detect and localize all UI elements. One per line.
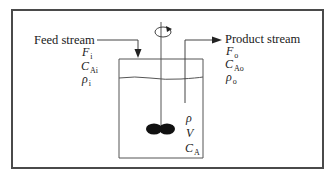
- product-stream-label: Product stream: [225, 32, 301, 46]
- tank-density-var: ρ: [185, 111, 192, 125]
- tank-concentration-var: CA: [185, 141, 200, 157]
- feed-arrow: [97, 40, 142, 58]
- cstr-diagram: Feed stream Fi CAi ρi Product stream Fo …: [0, 0, 334, 177]
- tank-volume-var: V: [186, 126, 195, 140]
- rotation-arrow-icon: [155, 26, 172, 37]
